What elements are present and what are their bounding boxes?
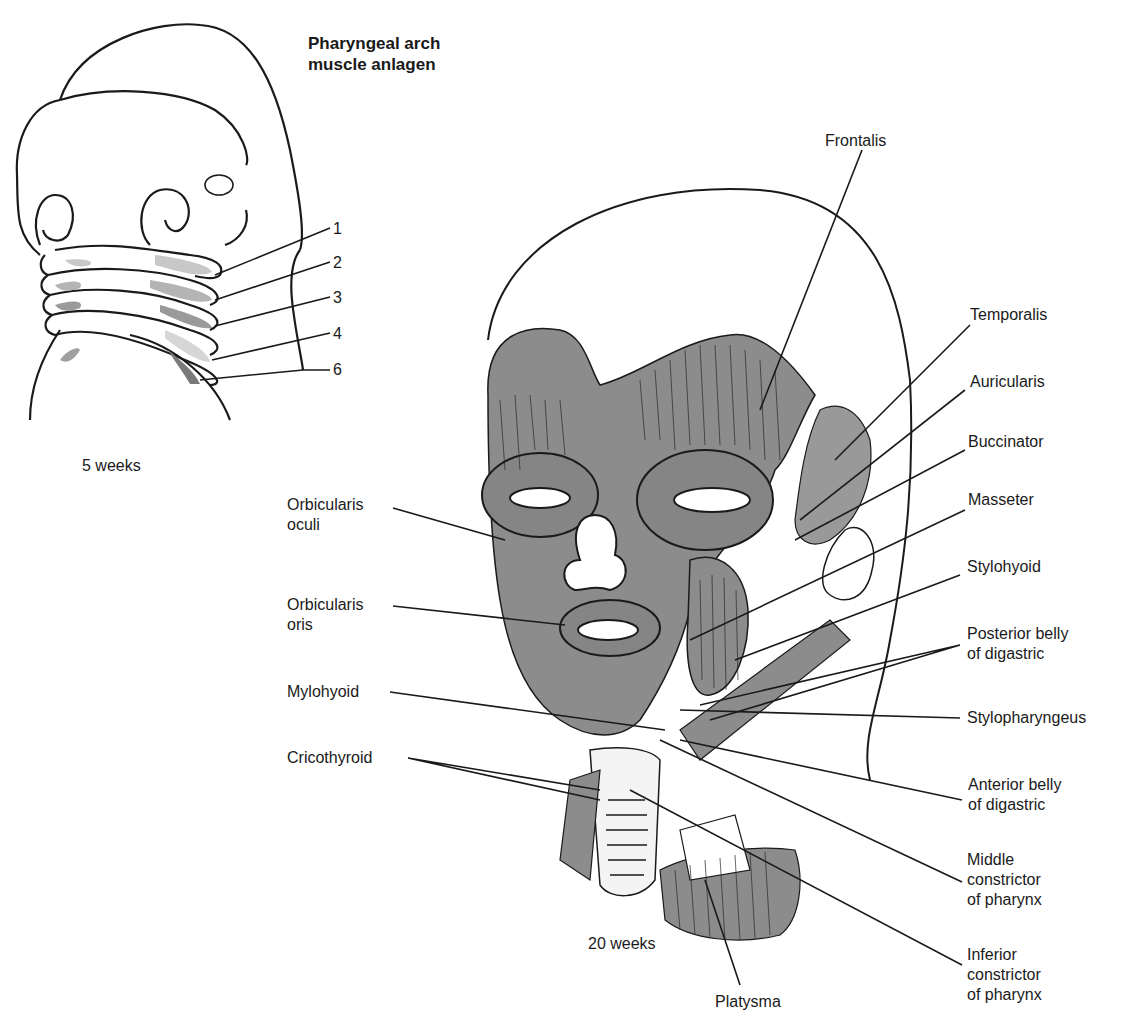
label-frontalis: Frontalis — [825, 131, 886, 151]
label-temporalis: Temporalis — [970, 305, 1047, 325]
label-posterior-belly-digastric: Posterior belly of digastric — [967, 624, 1068, 664]
label-stylopharyngeus: Stylopharyngeus — [967, 708, 1086, 728]
arch-label-4: 4 — [333, 325, 342, 343]
arch-label-6: 6 — [333, 361, 342, 379]
panel-title-anlagen: Pharyngeal arch muscle anlagen — [308, 33, 440, 75]
caption-20-weeks: 20 weeks — [588, 934, 656, 954]
label-orbicularis-oris: Orbicularis oris — [287, 595, 363, 635]
label-stylohyoid: Stylohyoid — [967, 557, 1041, 577]
label-anterior-belly-digastric: Anterior belly of digastric — [968, 775, 1061, 815]
label-masseter: Masseter — [968, 490, 1034, 510]
label-cricothyroid: Cricothyroid — [287, 748, 372, 768]
anatomy-illustration — [0, 0, 1135, 1029]
label-inferior-constrictor: Inferior constrictor of pharynx — [967, 945, 1042, 1005]
arch-label-3: 3 — [333, 289, 342, 307]
label-middle-constrictor: Middle constrictor of pharynx — [967, 850, 1042, 910]
label-platysma: Platysma — [715, 992, 781, 1012]
label-buccinator: Buccinator — [968, 432, 1044, 452]
clipped-caption — [310, 1022, 1130, 1029]
arch-label-2: 2 — [333, 254, 342, 272]
label-auricularis: Auricularis — [970, 372, 1045, 392]
label-mylohyoid: Mylohyoid — [287, 682, 359, 702]
label-orbicularis-oculi: Orbicularis oculi — [287, 495, 363, 535]
caption-5-weeks: 5 weeks — [82, 456, 141, 476]
arch-label-1: 1 — [333, 220, 342, 238]
